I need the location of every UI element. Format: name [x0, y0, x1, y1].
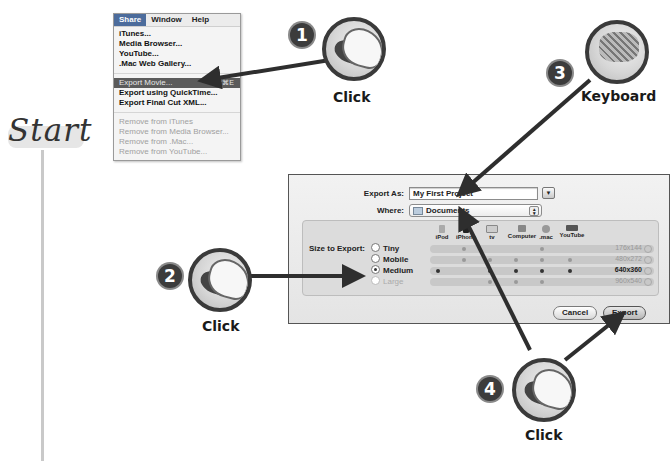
menu-help[interactable]: Help: [187, 14, 214, 26]
size-row-medium: 640x360: [430, 267, 654, 275]
step-2-badge: 2: [158, 264, 182, 288]
menu-item-export-movie[interactable]: Export Movie... ⌘E: [114, 78, 240, 88]
radio-button-checked[interactable]: [371, 265, 380, 274]
resolution-label: 176x144: [615, 244, 642, 251]
menu-item-mac-web-gallery[interactable]: .Mac Web Gallery...: [114, 59, 240, 69]
where-popup[interactable]: Documents ▴▾: [409, 204, 542, 217]
info-icon[interactable]: [644, 278, 652, 286]
size-radio-tiny[interactable]: Tiny: [371, 244, 399, 253]
mouse-click-icon: [512, 358, 576, 422]
menu-item-label: Export Movie...: [119, 78, 172, 87]
export-as-input[interactable]: My First Project: [409, 187, 538, 200]
size-radio-mobile[interactable]: Mobile: [371, 255, 408, 264]
size-row-large: 960x540: [430, 278, 654, 286]
mouse-click-icon: [188, 248, 252, 312]
shortcut-label: ⌘E: [222, 78, 234, 88]
resolution-label: 640x360: [615, 266, 642, 273]
step-3-badge: 3: [548, 61, 572, 85]
ipod-icon: [439, 225, 445, 233]
size-radio-large: Large: [371, 277, 403, 286]
keyboard-icon: [585, 20, 649, 84]
cancel-button[interactable]: Cancel: [553, 306, 597, 320]
updown-arrows-icon: ▴▾: [529, 206, 539, 216]
menu-item-export-quicktime[interactable]: Export using QuickTime...: [114, 88, 240, 98]
size-to-export-label: Size to Export:: [309, 244, 365, 253]
start-timeline-line: [41, 150, 44, 461]
resolution-label: 960x540: [615, 277, 642, 284]
menu-item-remove-mac: Remove from .Mac...: [114, 137, 240, 147]
step-1-label: Click: [333, 89, 370, 105]
size-row-tiny: 176x144: [430, 245, 654, 253]
device-appletv: tv: [477, 225, 507, 240]
appletv-icon: [486, 225, 498, 233]
menu-item-remove-media-browser: Remove from Media Browser...: [114, 127, 240, 137]
radio-button: [371, 276, 380, 285]
export-button[interactable]: Export: [603, 306, 646, 320]
device-youtube: YouTube: [557, 225, 587, 238]
menubar: Share Window Help: [114, 14, 240, 27]
menu-item-remove-youtube: Remove from YouTube...: [114, 147, 240, 157]
menu-window[interactable]: Window: [146, 14, 187, 26]
menu-item-export-final-cut-xml[interactable]: Export Final Cut XML...: [114, 98, 240, 108]
computer-icon: [518, 225, 526, 232]
expand-dialog-button[interactable]: ▼: [542, 187, 555, 199]
youtube-icon: [566, 225, 578, 231]
step-1-badge: 1: [290, 23, 314, 47]
mouse-click-icon: [322, 17, 386, 81]
menu-separator: [114, 112, 240, 113]
step-3-label: Keyboard: [581, 88, 656, 104]
menu-share[interactable]: Share: [114, 14, 146, 26]
start-marker: Start: [6, 112, 92, 148]
where-label: Where:: [329, 206, 404, 215]
where-value: Documents: [426, 206, 470, 215]
folder-icon: [413, 207, 423, 215]
dotmac-icon: [542, 225, 550, 233]
start-label: Start: [6, 112, 92, 148]
radio-button[interactable]: [371, 254, 380, 263]
menu-separator: [114, 73, 240, 74]
menu-item-media-browser[interactable]: Media Browser...: [114, 39, 240, 49]
size-options-panel: iPod iPhone tv Computer .mac YouTube Siz…: [302, 220, 659, 296]
menu-item-youtube[interactable]: YouTube...: [114, 49, 240, 59]
export-as-label: Export As:: [329, 189, 404, 198]
resolution-label: 480x272: [615, 255, 642, 262]
info-icon[interactable]: [644, 245, 652, 253]
size-radio-medium[interactable]: Medium: [371, 266, 413, 275]
export-movie-dialog: Export As: My First Project ▼ Where: Doc…: [288, 174, 670, 324]
step-4-label: Click: [525, 427, 562, 443]
menu-item-remove-itunes: Remove from iTunes: [114, 117, 240, 127]
menu-item-itunes[interactable]: iTunes...: [114, 29, 240, 39]
info-icon[interactable]: [644, 267, 652, 275]
radio-button[interactable]: [371, 243, 380, 252]
chevron-down-icon: ▼: [546, 190, 552, 196]
share-menu: Share Window Help iTunes... Media Browse…: [113, 13, 241, 161]
step-4-badge: 4: [478, 377, 502, 401]
step-2-label: Click: [202, 318, 239, 334]
size-row-mobile: 480x272: [430, 256, 654, 264]
iphone-icon: [463, 225, 469, 233]
info-icon[interactable]: [644, 256, 652, 264]
